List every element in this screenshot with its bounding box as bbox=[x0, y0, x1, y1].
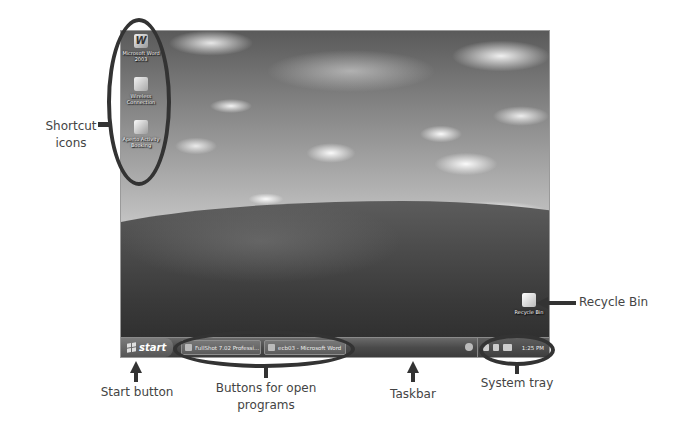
system-tray-pointer bbox=[515, 364, 519, 374]
shortcut-icons-highlight bbox=[107, 18, 171, 186]
desktop-icon-label: Recycle Bin bbox=[505, 309, 550, 315]
callout-taskbar: Taskbar bbox=[380, 386, 446, 403]
callout-recycle-bin: Recycle Bin bbox=[579, 294, 669, 311]
start-label: start bbox=[139, 342, 166, 353]
callout-shortcut-icons: Shortcut icons bbox=[40, 118, 102, 152]
system-tray-highlight bbox=[479, 334, 555, 366]
recycle-bin-icon bbox=[522, 293, 536, 307]
wallpaper-hill bbox=[120, 201, 550, 358]
callout-open-programs: Buttons for open programs bbox=[205, 380, 327, 414]
start-button[interactable]: start bbox=[121, 338, 173, 357]
tray-expand-icon[interactable] bbox=[465, 343, 473, 351]
desktop-screenshot: Microsoft Word 2003 Wireless Connection … bbox=[120, 30, 550, 358]
open-programs-pointer bbox=[264, 366, 268, 378]
windows-logo-icon bbox=[127, 342, 136, 352]
callout-start-button: Start button bbox=[92, 384, 182, 401]
recycle-bin-pointer bbox=[546, 301, 576, 305]
start-button-pointer bbox=[134, 372, 138, 382]
open-programs-highlight bbox=[173, 330, 355, 368]
callout-system-tray: System tray bbox=[474, 375, 560, 392]
taskbar-pointer bbox=[411, 372, 415, 382]
